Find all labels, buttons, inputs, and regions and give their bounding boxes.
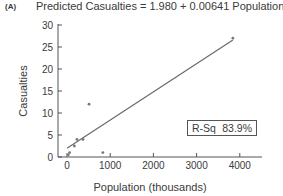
data-point	[88, 103, 91, 106]
x-tick-label: 4000	[229, 160, 252, 171]
r-squared-label: R-Sq	[192, 122, 216, 134]
data-point	[231, 37, 234, 40]
x-axis-label: Population (thousands)	[93, 181, 206, 193]
y-tick-label: 0	[47, 152, 53, 163]
x-tick-label: 3000	[185, 160, 208, 171]
y-tick-label: 30	[42, 20, 54, 31]
data-point	[101, 151, 104, 154]
y-axis-label: Casualties	[17, 65, 29, 117]
r-squared-value: 83.9%	[222, 122, 252, 134]
data-point	[82, 138, 85, 141]
data-point	[73, 145, 76, 148]
x-tick-label: 2000	[142, 160, 165, 171]
data-point	[76, 138, 79, 141]
scatter-plot: 05101520253001000200030004000 Population…	[0, 0, 283, 196]
x-tick-label: 0	[64, 160, 70, 171]
y-tick-label: 5	[47, 130, 53, 141]
data-point	[68, 151, 71, 154]
y-tick-label: 15	[42, 86, 54, 97]
y-tick-label: 20	[42, 64, 54, 75]
y-tick-label: 10	[42, 108, 54, 119]
axes	[58, 24, 262, 157]
tick-labels: 05101520253001000200030004000	[42, 20, 251, 172]
r-squared-box: R-Sq 83.9%	[187, 120, 257, 136]
y-tick-label: 25	[42, 42, 54, 53]
data-points	[67, 37, 234, 156]
x-tick-label: 1000	[99, 160, 122, 171]
